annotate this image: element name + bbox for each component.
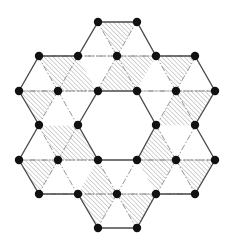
lattice-node: [54, 156, 62, 164]
lattice-node: [133, 18, 141, 26]
hexagon-ring-diagram: [0, 0, 232, 247]
hatched-triangle: [19, 160, 58, 194]
lattice-node: [152, 121, 160, 129]
hatched-triangle: [78, 160, 117, 194]
hatched-triangle: [176, 160, 215, 194]
dashed-edge: [117, 160, 137, 194]
lattice-node: [152, 190, 160, 198]
lattice-node: [133, 224, 141, 232]
lattice-node: [54, 87, 62, 95]
hatched-triangle: [98, 22, 137, 56]
lattice-node: [191, 52, 199, 60]
dashed-edge: [58, 160, 78, 194]
hatched-triangle: [157, 57, 196, 91]
lattice-node: [35, 52, 43, 60]
lattice-node: [35, 121, 43, 129]
hatched-triangle: [19, 91, 58, 125]
lattice-node: [133, 87, 141, 95]
hatched-triangle: [137, 160, 176, 194]
lattice-node: [35, 190, 43, 198]
lattice-node: [15, 156, 23, 164]
lattice-node: [15, 87, 23, 95]
lattice-node: [94, 18, 102, 26]
hatched-triangle: [117, 194, 156, 228]
lattice-node: [172, 156, 180, 164]
lattice-node: [152, 52, 160, 60]
lattice-node: [191, 190, 199, 198]
lattice-node: [133, 156, 141, 164]
hatched-triangle: [78, 194, 117, 228]
dashed-edge: [176, 126, 196, 160]
lattice-node: [113, 190, 121, 198]
lattice-node: [94, 224, 102, 232]
lattice-node: [74, 52, 82, 60]
lattice-node: [74, 121, 82, 129]
hatched-triangle: [137, 126, 176, 160]
lattice-node: [211, 87, 219, 95]
lattice-node: [94, 156, 102, 164]
lattice-node: [113, 52, 121, 60]
lattice-node: [94, 87, 102, 95]
lattice-node: [172, 87, 180, 95]
dashed-edge: [58, 91, 78, 125]
lattice-node: [191, 121, 199, 129]
lattice-node: [74, 190, 82, 198]
lattice-node: [211, 156, 219, 164]
